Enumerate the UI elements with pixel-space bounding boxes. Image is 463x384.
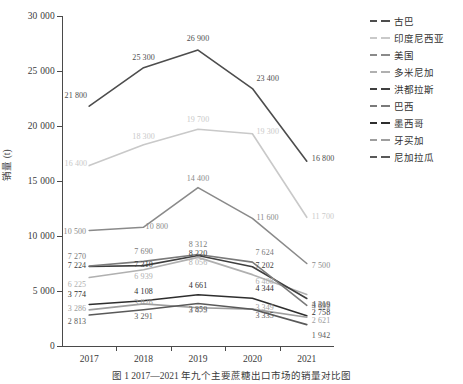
legend-dash-icon	[370, 135, 390, 145]
y-tick-label: 0	[50, 341, 55, 351]
legend-dash-icon	[370, 50, 390, 60]
legend-dash-icon	[370, 152, 390, 162]
legend-item-label: 印度尼西亚	[394, 31, 444, 45]
legend-dash-icon	[370, 84, 390, 94]
y-axis-title: 销量 (t)	[0, 149, 13, 180]
legend-item-label: 多米尼加	[394, 65, 434, 79]
x-tick-mark	[225, 346, 226, 351]
legend-item-label: 洪都拉斯	[394, 82, 434, 96]
x-tick-label: 2017	[80, 354, 99, 364]
x-tick-label: 2019	[189, 354, 208, 364]
x-axis-line	[62, 346, 334, 347]
chart-legend: 古巴印度尼西亚美国多米尼加洪都拉斯巴西墨西哥牙买加尼加拉瓜	[370, 12, 462, 165]
x-tick-mark	[280, 346, 281, 351]
legend-item-7[interactable]: 牙买加	[370, 131, 462, 148]
figure-caption: 图 1 2017—2021 年九个主要蔗糖出口市场的销量对比图	[0, 368, 463, 382]
legend-item-label: 美国	[394, 48, 414, 62]
legend-item-8[interactable]: 尼加拉瓜	[370, 148, 462, 165]
legend-item-label: 尼加拉瓜	[394, 150, 434, 164]
legend-item-1[interactable]: 印度尼西亚	[370, 29, 462, 46]
plot-area: 05 00010 00015 00020 00025 00030 000 201…	[62, 16, 334, 346]
legend-item-3[interactable]: 多米尼加	[370, 63, 462, 80]
y-tick-label: 10 000	[28, 231, 55, 241]
legend-item-6[interactable]: 墨西哥	[370, 114, 462, 131]
series-line	[89, 50, 307, 161]
y-tick-mark	[57, 346, 62, 347]
legend-dash-icon	[370, 67, 390, 77]
legend-dash-icon	[370, 16, 390, 26]
x-tick-label: 2020	[243, 354, 262, 364]
series-line	[89, 256, 307, 299]
legend-item-2[interactable]: 美国	[370, 46, 462, 63]
x-tick-label: 2018	[134, 354, 153, 364]
legend-dash-icon	[370, 33, 390, 43]
legend-item-label: 墨西哥	[394, 116, 424, 130]
legend-item-4[interactable]: 洪都拉斯	[370, 80, 462, 97]
series-line	[89, 188, 307, 264]
y-tick-label: 30 000	[28, 11, 55, 21]
series-line	[89, 255, 307, 306]
y-tick-label: 25 000	[28, 66, 55, 76]
y-tick-label: 20 000	[28, 121, 55, 131]
chart-root: 05 00010 00015 00020 00025 00030 000 201…	[0, 0, 463, 384]
y-tick-label: 15 000	[28, 176, 55, 186]
x-tick-mark	[171, 346, 172, 351]
x-tick-label: 2021	[297, 354, 316, 364]
series-lines	[62, 16, 334, 346]
y-tick-label: 5 000	[33, 286, 55, 296]
legend-dash-icon	[370, 118, 390, 128]
legend-item-label: 巴西	[394, 99, 414, 113]
series-line	[89, 129, 307, 217]
legend-item-label: 古巴	[394, 14, 414, 28]
legend-item-label: 牙买加	[394, 133, 424, 147]
legend-dash-icon	[370, 101, 390, 111]
legend-item-5[interactable]: 巴西	[370, 97, 462, 114]
legend-item-0[interactable]: 古巴	[370, 12, 462, 29]
x-tick-mark	[116, 346, 117, 351]
